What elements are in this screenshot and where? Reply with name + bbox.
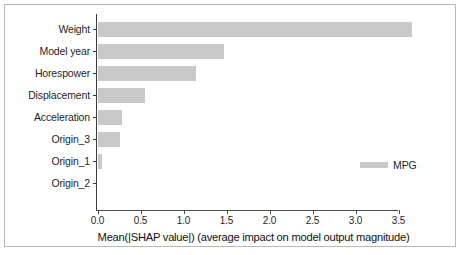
bar <box>98 66 196 81</box>
legend-swatch-mpg <box>360 162 388 168</box>
y-tick <box>93 139 97 140</box>
y-axis-label: Origin_3 <box>0 128 90 150</box>
bar-row: Origin_2 <box>0 172 463 194</box>
x-tick <box>141 210 142 214</box>
bar <box>98 88 145 103</box>
x-tick <box>184 210 185 214</box>
x-tick <box>399 210 400 214</box>
x-axis-title: Mean(|SHAP value|) (average impact on mo… <box>0 231 463 243</box>
bar-row: Model year <box>0 40 463 62</box>
bar-row: Weight <box>0 18 463 40</box>
bar <box>98 44 224 59</box>
x-tick-label: 3.0 <box>336 215 376 226</box>
y-axis-label: Origin_1 <box>0 150 90 172</box>
x-tick-label: 1.5 <box>207 215 247 226</box>
y-tick <box>93 161 97 162</box>
y-tick <box>93 183 97 184</box>
y-axis-label: Horespower <box>0 62 90 84</box>
bar <box>98 110 122 125</box>
x-tick-label: 2.0 <box>250 215 290 226</box>
bar <box>98 22 413 37</box>
x-tick <box>313 210 314 214</box>
shap-feature-importance-figure: WeightModel yearHorespowerDisplacementAc… <box>0 0 463 255</box>
y-tick <box>93 73 97 74</box>
bar <box>98 132 120 147</box>
legend-label-mpg: MPG <box>393 159 417 171</box>
y-tick <box>93 117 97 118</box>
bar-row: Displacement <box>0 84 463 106</box>
bar <box>98 154 102 169</box>
y-tick <box>93 51 97 52</box>
bar-row: Origin_3 <box>0 128 463 150</box>
legend: MPG <box>360 159 417 171</box>
y-tick <box>93 29 97 30</box>
x-tick <box>227 210 228 214</box>
bar-row: Acceleration <box>0 106 463 128</box>
y-tick <box>93 95 97 96</box>
x-tick <box>270 210 271 214</box>
bar-row: Horespower <box>0 62 463 84</box>
x-tick <box>98 210 99 214</box>
y-axis-label: Model year <box>0 40 90 62</box>
x-tick <box>356 210 357 214</box>
x-tick-label: 2.5 <box>293 215 333 226</box>
x-tick-label: 0.0 <box>78 215 118 226</box>
plot-area: WeightModel yearHorespowerDisplacementAc… <box>0 0 463 255</box>
y-axis-label: Acceleration <box>0 106 90 128</box>
y-axis-label: Weight <box>0 18 90 40</box>
y-axis-label: Displacement <box>0 84 90 106</box>
x-tick-label: 0.5 <box>121 215 161 226</box>
x-tick-label: 1.0 <box>164 215 204 226</box>
y-axis-label: Origin_2 <box>0 172 90 194</box>
x-tick-label: 3.5 <box>379 215 419 226</box>
